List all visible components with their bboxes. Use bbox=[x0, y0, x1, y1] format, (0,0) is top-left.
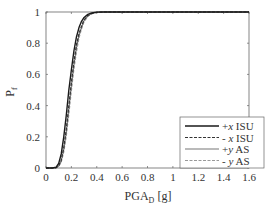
y-tick-label: 0 bbox=[35, 162, 41, 174]
legend-label: +x ISU bbox=[222, 120, 254, 132]
x-tick-label: 0.6 bbox=[115, 171, 129, 183]
legend-label: - x ISU bbox=[222, 132, 254, 144]
x-tick-label: 0 bbox=[43, 171, 49, 183]
legend: +x ISU- x ISU+y AS- y AS bbox=[180, 117, 264, 168]
y-tick-label: 0.8 bbox=[26, 37, 40, 49]
x-tick-label: 0.8 bbox=[141, 171, 155, 183]
legend-label: - y AS bbox=[222, 155, 250, 167]
x-tick-label: 1.4 bbox=[217, 171, 231, 183]
x-tick-label: 1.6 bbox=[242, 171, 256, 183]
x-tick-label: 0.2 bbox=[65, 171, 79, 183]
y-tick-label: 1 bbox=[35, 6, 41, 18]
y-axis-label: Pf bbox=[3, 87, 19, 97]
y-tick-label: 0.2 bbox=[26, 131, 40, 143]
x-tick-label: 1 bbox=[170, 171, 176, 183]
x-tick-labels: 00.20.40.60.811.21.41.6 bbox=[43, 171, 256, 183]
legend-label: +y AS bbox=[222, 143, 249, 155]
y-tick-labels: 00.20.40.60.81 bbox=[26, 6, 40, 174]
x-axis-label: PGAD [g] bbox=[125, 189, 172, 205]
y-tick-label: 0.4 bbox=[26, 100, 40, 112]
y-tick-label: 0.6 bbox=[26, 68, 40, 80]
fragility-chart: 00.20.40.60.811.21.41.6 00.20.40.60.81 P… bbox=[0, 0, 267, 213]
x-tick-label: 0.4 bbox=[90, 171, 104, 183]
x-tick-label: 1.2 bbox=[191, 171, 205, 183]
